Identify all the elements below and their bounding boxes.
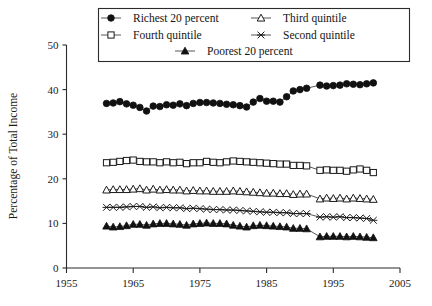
marker-open-square — [257, 160, 263, 166]
marker-filled-circle — [317, 82, 324, 89]
marker-open-square — [150, 159, 156, 165]
chart-legend: Richest 20 percentThird quintileFourth q… — [99, 9, 410, 62]
marker-filled-circle — [143, 108, 150, 115]
marker-filled-circle — [170, 102, 177, 109]
marker-open-square — [117, 158, 123, 164]
marker-filled-circle — [137, 104, 144, 111]
marker-open-square — [110, 159, 116, 165]
marker-filled-circle — [343, 81, 350, 88]
marker-filled-circle — [270, 98, 277, 105]
marker-open-square — [203, 158, 209, 164]
marker-open-square — [250, 159, 256, 165]
y-axis-title: Percentage of Total Income — [7, 93, 20, 219]
marker-open-square — [177, 159, 183, 165]
marker-open-square — [357, 166, 363, 172]
marker-open-square — [344, 168, 350, 174]
marker-open-square — [243, 159, 249, 165]
marker-filled-circle — [230, 101, 237, 108]
marker-filled-circle — [183, 102, 190, 109]
marker-filled-circle — [350, 81, 357, 88]
marker-open-square — [130, 157, 136, 163]
y-tick-label: 30 — [48, 128, 60, 140]
marker-filled-circle — [110, 100, 117, 107]
marker-open-square — [223, 159, 229, 165]
marker-open-square — [170, 160, 176, 166]
x-tick-label: 2005 — [389, 277, 412, 289]
marker-open-square — [217, 160, 223, 166]
marker-filled-circle — [357, 81, 364, 88]
marker-open-square — [317, 167, 323, 173]
chart-svg: 01020304050 195519651975198519952005 Per… — [0, 0, 432, 306]
y-tick-label: 20 — [48, 173, 60, 185]
marker-filled-circle — [210, 100, 217, 107]
marker-open-square — [230, 158, 236, 164]
marker-open-square — [183, 161, 189, 167]
legend-label: Richest 20 percent — [133, 12, 219, 25]
y-tick-label: 0 — [53, 262, 59, 274]
marker-open-square — [330, 167, 336, 173]
y-tick-label: 10 — [48, 217, 60, 229]
marker-filled-circle — [290, 88, 297, 95]
x-tick-label: 1965 — [122, 277, 145, 289]
x-tick-label: 1985 — [256, 277, 279, 289]
marker-open-square — [103, 160, 109, 166]
marker-filled-circle — [223, 101, 230, 108]
marker-filled-circle — [323, 83, 330, 90]
marker-filled-circle — [337, 82, 344, 89]
marker-open-square — [284, 161, 290, 167]
x-tick-label: 1975 — [189, 277, 212, 289]
y-tick-label: 50 — [48, 39, 60, 51]
marker-open-square — [364, 167, 370, 173]
marker-filled-circle — [370, 80, 377, 87]
marker-open-square — [370, 169, 376, 175]
marker-open-square — [210, 159, 216, 165]
marker-open-square — [143, 159, 149, 165]
y-tick-label: 40 — [48, 84, 60, 96]
marker-filled-circle — [163, 101, 170, 108]
chart-figure: 01020304050 195519651975198519952005 Per… — [0, 0, 432, 306]
marker-open-square — [297, 162, 303, 168]
marker-open-square — [237, 158, 243, 164]
marker-filled-circle — [117, 98, 124, 105]
marker-open-square — [270, 161, 276, 167]
marker-open-square — [304, 163, 310, 169]
marker-filled-circle — [190, 100, 197, 107]
marker-filled-circle — [257, 95, 264, 102]
marker-filled-circle — [108, 15, 115, 22]
marker-open-square — [264, 160, 270, 166]
marker-filled-circle — [130, 102, 137, 109]
marker-filled-circle — [263, 98, 270, 105]
marker-filled-circle — [150, 103, 157, 110]
marker-open-square — [337, 167, 343, 173]
marker-filled-circle — [103, 100, 110, 107]
marker-open-square — [290, 162, 296, 168]
marker-filled-circle — [157, 103, 164, 110]
marker-filled-circle — [243, 104, 250, 111]
marker-filled-circle — [297, 86, 304, 93]
marker-open-square — [350, 167, 356, 173]
legend-label: Poorest 20 percent — [207, 45, 293, 58]
marker-filled-circle — [177, 101, 184, 108]
marker-open-square — [157, 160, 163, 166]
x-tick-label: 1955 — [56, 277, 79, 289]
marker-filled-circle — [203, 99, 210, 106]
marker-filled-circle — [330, 82, 337, 89]
marker-filled-circle — [237, 102, 244, 109]
marker-filled-circle — [123, 101, 130, 108]
legend-label: Second quintile — [283, 29, 355, 42]
marker-filled-circle — [303, 85, 310, 92]
marker-filled-circle — [277, 99, 284, 106]
marker-filled-circle — [197, 99, 204, 106]
marker-filled-circle — [217, 100, 224, 107]
marker-filled-circle — [250, 99, 257, 106]
marker-open-square — [197, 160, 203, 166]
marker-open-square — [277, 161, 283, 167]
marker-open-square — [137, 158, 143, 164]
marker-open-square — [108, 32, 114, 38]
marker-open-square — [163, 159, 169, 165]
legend-label: Fourth quintile — [133, 29, 202, 42]
marker-open-square — [123, 157, 129, 163]
x-tick-label: 1995 — [322, 277, 345, 289]
marker-filled-circle — [363, 81, 370, 88]
marker-filled-circle — [283, 93, 290, 100]
